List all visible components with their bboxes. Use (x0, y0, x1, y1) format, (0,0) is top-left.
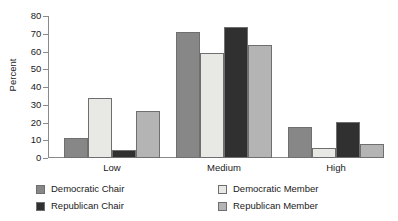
legend-label: Republican Member (233, 201, 318, 211)
x-axis-category-label: Medium (176, 162, 272, 173)
bar-chart: Percent 01020304050607080 LowMediumHigh … (0, 0, 398, 221)
y-axis-tick-label: 70 (3, 29, 41, 39)
y-axis-tick-label: 0 (3, 153, 41, 163)
legend-item: Republican Chair (36, 199, 124, 213)
legend-swatch-icon (218, 185, 227, 194)
x-axis-category-label: Low (64, 162, 160, 173)
bar (288, 127, 312, 158)
legend-label: Democratic Member (233, 184, 319, 194)
legend-item: Democratic Chair (36, 182, 124, 196)
bar (200, 53, 224, 158)
bar (224, 27, 248, 158)
bar (64, 138, 88, 158)
bar (112, 150, 136, 158)
bar (360, 144, 384, 158)
bar (312, 148, 336, 158)
bar (336, 122, 360, 158)
plot-area (48, 16, 378, 158)
chart-legend: Democratic ChairRepublican ChairDemocrat… (36, 182, 386, 216)
legend-label: Republican Chair (51, 201, 124, 211)
legend-swatch-icon (36, 202, 45, 211)
legend-item: Democratic Member (218, 182, 319, 196)
bar (248, 45, 272, 158)
legend-label: Democratic Chair (51, 184, 124, 194)
y-axis-tick-label: 80 (3, 11, 41, 21)
y-axis-tick-label: 10 (3, 135, 41, 145)
y-axis-tick-label: 50 (3, 64, 41, 74)
bar (176, 32, 200, 158)
legend-swatch-icon (36, 185, 45, 194)
legend-item: Republican Member (218, 199, 318, 213)
y-axis-tick-label: 60 (3, 47, 41, 57)
bar (88, 98, 112, 158)
bar (136, 111, 160, 158)
x-axis-category-label: High (288, 162, 384, 173)
y-axis-tick-label: 40 (3, 82, 41, 92)
y-axis-tick (43, 158, 48, 159)
y-axis-labels: 01020304050607080 (0, 0, 41, 221)
y-axis-tick-label: 30 (3, 100, 41, 110)
y-axis-tick-label: 20 (3, 118, 41, 128)
legend-swatch-icon (218, 202, 227, 211)
